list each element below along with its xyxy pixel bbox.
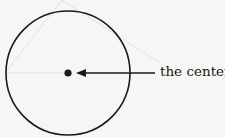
center-point	[64, 69, 71, 76]
arrow	[76, 69, 155, 77]
center-label: the center	[160, 63, 225, 79]
faint-show-through-lines	[5, 0, 160, 73]
